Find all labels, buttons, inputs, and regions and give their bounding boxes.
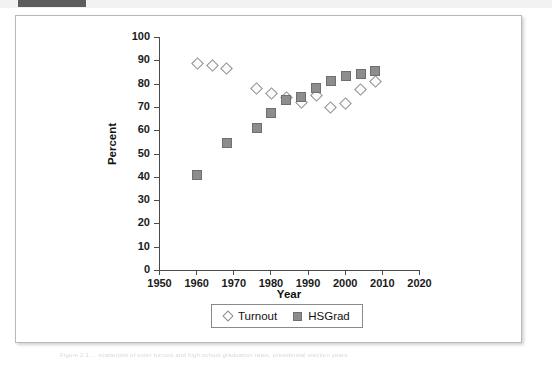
x-tick-label: 1960 [184, 277, 208, 289]
y-tick-mark [154, 107, 159, 108]
x-tick-mark [233, 270, 234, 275]
y-tick-mark [154, 130, 159, 131]
y-axis-title: Percent [106, 123, 118, 165]
data-point-turnout [250, 82, 263, 95]
chart-legend: Turnout HSGrad [211, 304, 363, 328]
x-tick: 2010 [382, 270, 383, 275]
x-axis-line [159, 270, 419, 271]
y-tick-label: 50 [138, 147, 150, 159]
figure-caption: Figure 2.1 ... scatterplot of voter turn… [60, 352, 500, 358]
data-point-hsgrad [252, 123, 262, 133]
x-tick-label: 2020 [407, 277, 431, 289]
figure-card: 0102030405060708090100 19501960197019801… [15, 15, 522, 343]
x-tick: 1970 [233, 270, 234, 275]
x-tick-label: 2010 [370, 277, 394, 289]
y-tick-mark [154, 154, 159, 155]
y-axis-line [159, 37, 160, 271]
legend-entry-turnout[interactable]: Turnout [224, 310, 277, 322]
y-tick-label: 100 [132, 30, 150, 42]
y-tick-label: 10 [138, 240, 150, 252]
y-tick: 80 [154, 84, 159, 85]
y-tick: 90 [154, 60, 159, 61]
data-point-hsgrad [356, 69, 366, 79]
x-tick-mark [419, 270, 420, 275]
legend-entry-hsgrad[interactable]: HSGrad [293, 310, 350, 322]
x-tick-label: 1950 [147, 277, 171, 289]
x-tick-label: 1970 [222, 277, 246, 289]
y-tick-mark [154, 37, 159, 38]
y-tick-mark [154, 200, 159, 201]
data-point-hsgrad [370, 66, 380, 76]
x-tick-mark [196, 270, 197, 275]
data-point-turnout [369, 75, 382, 88]
y-tick: 50 [154, 154, 159, 155]
x-tick-mark [345, 270, 346, 275]
y-tick-mark [154, 60, 159, 61]
x-axis-title: Year [277, 288, 301, 300]
y-tick-label: 30 [138, 193, 150, 205]
x-tick: 1990 [308, 270, 309, 275]
data-point-turnout [324, 102, 337, 115]
data-point-turnout [339, 97, 352, 110]
data-point-hsgrad [311, 83, 321, 93]
y-tick-label: 40 [138, 170, 150, 182]
y-tick-label: 90 [138, 53, 150, 65]
y-tick-mark [154, 84, 159, 85]
data-point-hsgrad [296, 92, 306, 102]
filled-square-icon [293, 312, 302, 321]
y-tick-label: 60 [138, 123, 150, 135]
x-tick-label: 2000 [333, 277, 357, 289]
x-tick-mark [308, 270, 309, 275]
data-point-turnout [191, 57, 204, 70]
y-tick-label: 80 [138, 77, 150, 89]
data-point-turnout [220, 62, 233, 75]
y-tick-mark [154, 247, 159, 248]
data-point-turnout [354, 83, 367, 96]
page-top-band [0, 0, 552, 8]
data-point-hsgrad [222, 138, 232, 148]
data-point-hsgrad [341, 71, 351, 81]
data-point-hsgrad [281, 95, 291, 105]
x-tick: 2000 [345, 270, 346, 275]
y-tick: 20 [154, 223, 159, 224]
legend-label-turnout: Turnout [238, 310, 277, 322]
y-tick: 30 [154, 200, 159, 201]
scatter-plot: 0102030405060708090100 19501960197019801… [16, 16, 521, 342]
y-tick-label: 0 [144, 263, 150, 275]
x-tick-mark [159, 270, 160, 275]
y-tick-label: 70 [138, 100, 150, 112]
data-point-turnout [265, 88, 278, 101]
open-diamond-icon [222, 310, 233, 321]
y-tick-mark [154, 223, 159, 224]
x-tick-mark [270, 270, 271, 275]
x-tick: 1950 [159, 270, 160, 275]
y-tick-label: 20 [138, 216, 150, 228]
y-tick-mark [154, 177, 159, 178]
data-point-hsgrad [326, 76, 336, 86]
y-tick: 40 [154, 177, 159, 178]
legend-label-hsgrad: HSGrad [308, 310, 350, 322]
data-point-turnout [206, 60, 219, 73]
page-top-band-marker [18, 0, 86, 7]
x-tick: 2020 [419, 270, 420, 275]
x-tick-mark [382, 270, 383, 275]
y-tick: 60 [154, 130, 159, 131]
y-tick: 10 [154, 247, 159, 248]
x-tick: 1980 [270, 270, 271, 275]
x-tick: 1960 [196, 270, 197, 275]
data-point-hsgrad [192, 170, 202, 180]
y-tick: 100 [154, 37, 159, 38]
data-point-hsgrad [266, 108, 276, 118]
y-tick: 70 [154, 107, 159, 108]
